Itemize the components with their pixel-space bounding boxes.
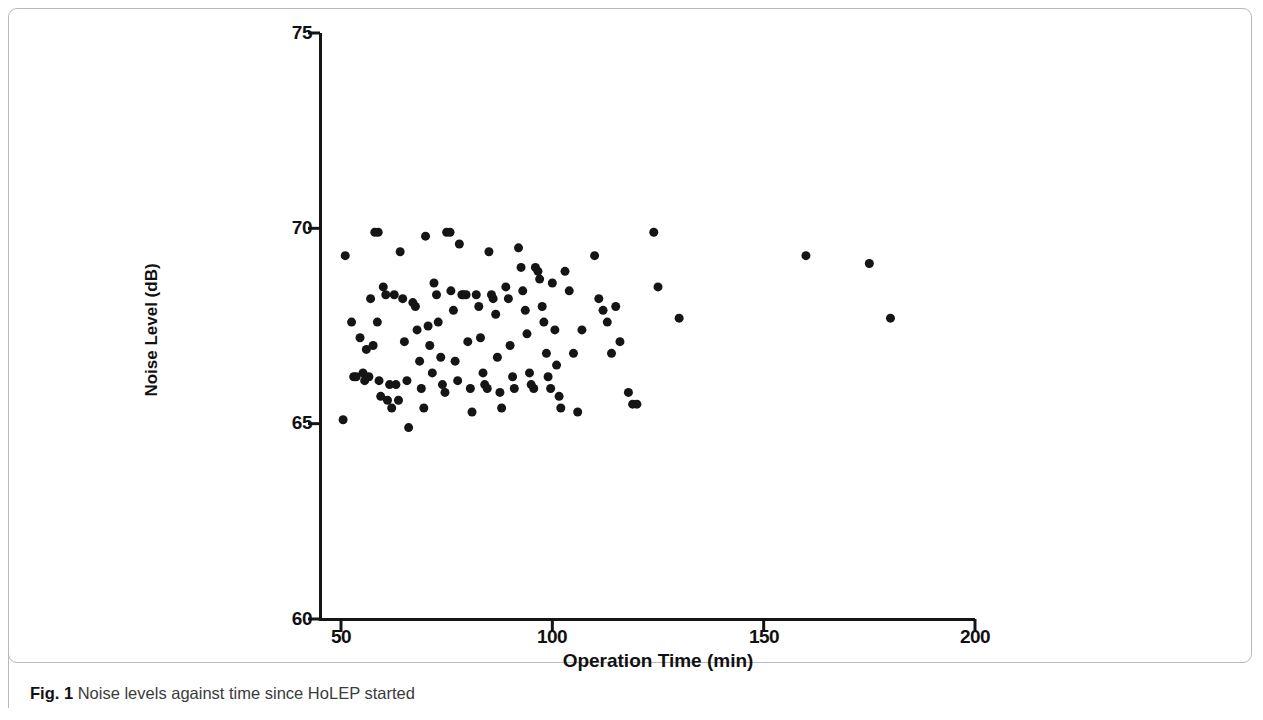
scatter-point (379, 282, 388, 291)
scatter-point (436, 353, 445, 362)
scatter-point (539, 318, 548, 327)
scatter-point (603, 318, 612, 327)
y-axis-title: Noise Level (dB) (142, 160, 162, 500)
scatter-points-group (339, 228, 895, 432)
scatter-point (339, 415, 348, 424)
scatter-point (508, 372, 517, 381)
scatter-point (632, 400, 641, 409)
scatter-point (573, 407, 582, 416)
figure-caption-text: Noise levels against time since HoLEP st… (78, 684, 415, 702)
scatter-point (381, 290, 390, 299)
scatter-point (394, 396, 403, 405)
x-tick-label-100: 100 (522, 626, 582, 648)
scatter-point (594, 294, 603, 303)
scatter-point (425, 341, 434, 350)
scatter-point (472, 290, 481, 299)
scatter-point (341, 251, 350, 260)
scatter-point (649, 228, 658, 237)
scatter-point (400, 337, 409, 346)
scatter-point (446, 286, 455, 295)
scatter-point (463, 337, 472, 346)
scatter-point (542, 349, 551, 358)
scatter-point (525, 368, 534, 377)
scatter-point (624, 388, 633, 397)
scatter-point (493, 353, 502, 362)
x-tick-label-200: 200 (945, 626, 1005, 648)
scatter-point (415, 357, 424, 366)
scatter-point (398, 294, 407, 303)
scatter-point (383, 396, 392, 405)
scatter-point (411, 302, 420, 311)
scatter-point (510, 384, 519, 393)
scatter-point (347, 318, 356, 327)
scatter-point (434, 318, 443, 327)
scatter-point (484, 247, 493, 256)
scatter-point (521, 306, 530, 315)
scatter-point (413, 325, 422, 334)
scatter-point (446, 228, 455, 237)
scatter-point (801, 251, 810, 260)
scatter-point (491, 310, 500, 319)
figure-caption: Fig. 1 Noise levels against time since H… (30, 684, 415, 703)
scatter-point (550, 325, 559, 334)
scatter-point (387, 404, 396, 413)
scatter-point (417, 384, 426, 393)
scatter-point (396, 247, 405, 256)
scatter-plot: 75 70 65 60 50 100 150 200 Noise Level (… (0, 0, 1263, 660)
y-tick-label-75: 75 (268, 22, 312, 44)
scatter-point (391, 380, 400, 389)
scatter-point (529, 384, 538, 393)
scatter-point (404, 423, 413, 432)
y-tick-label-60: 60 (268, 608, 312, 630)
scatter-point (440, 388, 449, 397)
figure-root: 75 70 65 60 50 100 150 200 Noise Level (… (0, 0, 1263, 720)
scatter-point (374, 228, 383, 237)
x-axis-title: Operation Time (min) (341, 650, 975, 672)
scatter-point (489, 294, 498, 303)
scatter-point (432, 290, 441, 299)
scatter-point (865, 259, 874, 268)
y-tick-label-70: 70 (268, 217, 312, 239)
scatter-point (517, 263, 526, 272)
scatter-point (548, 279, 557, 288)
scatter-point (504, 294, 513, 303)
scatter-point (451, 357, 460, 366)
scatter-point (546, 384, 555, 393)
scatter-point (535, 275, 544, 284)
scatter-point (886, 314, 895, 323)
scatter-point (565, 286, 574, 295)
scatter-point (599, 306, 608, 315)
scatter-point (615, 337, 624, 346)
scatter-point (429, 279, 438, 288)
scatter-point (466, 384, 475, 393)
figure-number: Fig. 1 (30, 684, 73, 702)
scatter-plot-canvas (0, 0, 1263, 660)
scatter-point (419, 404, 428, 413)
scatter-point (538, 302, 547, 311)
scatter-point (462, 290, 471, 299)
x-tick-label-150: 150 (734, 626, 794, 648)
scatter-point (506, 341, 515, 350)
scatter-point (421, 232, 430, 241)
scatter-point (607, 349, 616, 358)
scatter-point (455, 239, 464, 248)
scatter-point (611, 302, 620, 311)
scatter-point (449, 306, 458, 315)
scatter-point (453, 376, 462, 385)
scatter-point (424, 322, 433, 331)
scatter-point (495, 388, 504, 397)
y-axis-ticks (308, 33, 320, 619)
scatter-point (364, 372, 373, 381)
scatter-point (438, 380, 447, 389)
scatter-point (518, 286, 527, 295)
scatter-point (590, 251, 599, 260)
scatter-point (556, 404, 565, 413)
scatter-point (369, 341, 378, 350)
scatter-point (428, 368, 437, 377)
scatter-point (483, 384, 492, 393)
scatter-point (675, 314, 684, 323)
scatter-point (474, 302, 483, 311)
scatter-point (356, 333, 365, 342)
scatter-point (476, 333, 485, 342)
scatter-point (497, 404, 506, 413)
